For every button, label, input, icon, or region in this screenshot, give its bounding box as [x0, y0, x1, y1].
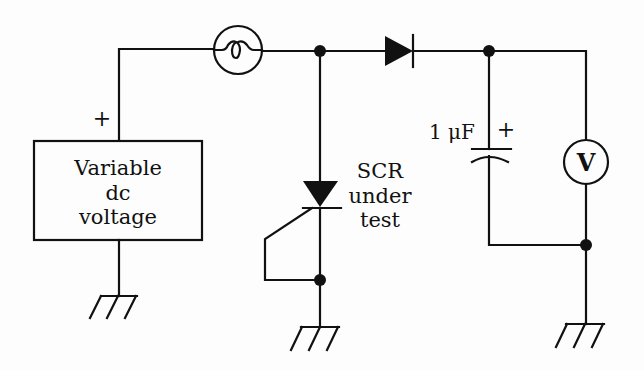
source-label-line-3: voltage	[78, 205, 157, 229]
ground-icon	[556, 324, 604, 347]
scr-label-line-2: under	[349, 184, 413, 208]
ground-icon	[291, 327, 339, 350]
source-label-line-1: Variable	[73, 156, 162, 180]
voltmeter-symbol: V	[576, 148, 596, 177]
voltmeter-icon: V	[564, 140, 608, 184]
ground-icon	[90, 240, 137, 318]
capacitor-plus-sign: +	[497, 117, 515, 142]
schematic-svg: Variable dc voltage + SCR under test	[0, 0, 644, 370]
source-label-line-2: dc	[105, 181, 130, 205]
scr-label-line-3: test	[360, 208, 401, 232]
source-plus-sign: +	[93, 106, 111, 131]
lamp-icon	[214, 26, 262, 74]
diode-icon	[385, 35, 413, 67]
junction-node	[314, 274, 326, 286]
scr-label-line-1: SCR	[357, 159, 404, 183]
wire-source-to-lamp	[119, 49, 214, 141]
scr-icon	[265, 181, 341, 280]
junction-node	[580, 239, 592, 251]
capacitor-value-label: 1 μF	[429, 120, 475, 144]
circuit-diagram: Variable dc voltage + SCR under test	[0, 0, 644, 370]
